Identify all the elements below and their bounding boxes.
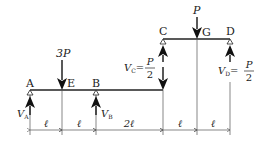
- reaction-VC-up-arrow-icon: [158, 45, 168, 62]
- reaction-VD-label: VD= P 2: [218, 59, 254, 83]
- node-label-D: D: [226, 25, 235, 38]
- node-label-E: E: [67, 77, 75, 90]
- svg-text:VD=: VD=: [218, 65, 238, 77]
- dim-CG: ℓ: [178, 118, 182, 129]
- svg-text:P: P: [146, 56, 154, 67]
- load-3P-label: 3P: [56, 47, 71, 60]
- reaction-VC-label: VC= P 2: [124, 56, 155, 80]
- beam-diagram: ℓ ℓ 2ℓ ℓ ℓ A E B C G D 3P P VA: [0, 0, 271, 148]
- dim-AE: ℓ: [44, 118, 48, 129]
- node-label-C: C: [159, 25, 167, 38]
- dim-BC: 2ℓ: [123, 118, 135, 129]
- reaction-VB-label: VB: [101, 108, 113, 120]
- svg-text:VC=: VC=: [124, 62, 144, 74]
- load-P-arrow-icon: [192, 17, 202, 39]
- reaction-VA-label: VA: [17, 108, 29, 120]
- dim-GD: ℓ: [211, 118, 215, 129]
- svg-text:P: P: [245, 59, 253, 70]
- reaction-VC-down-arrow-icon: [158, 67, 168, 90]
- dim-EB: ℓ: [77, 118, 81, 129]
- reaction-VD-arrow-icon: [225, 45, 235, 62]
- svg-text:2: 2: [147, 69, 153, 80]
- node-label-A: A: [25, 77, 35, 90]
- svg-text:2: 2: [246, 72, 252, 83]
- node-label-B: B: [92, 77, 100, 90]
- load-P-label: P: [192, 4, 201, 17]
- load-3P-arrow-icon: [57, 60, 67, 90]
- node-label-G: G: [202, 26, 211, 39]
